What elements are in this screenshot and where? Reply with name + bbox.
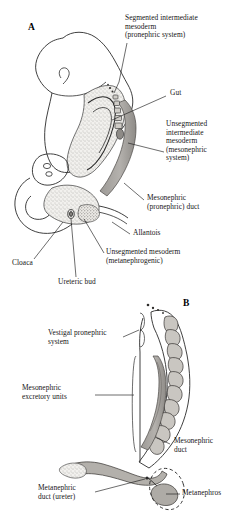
cloaca-stipple-tail	[59, 463, 86, 478]
label-segmented-intermediate-mesoderm: Segmented intermediate mesoderm (proneph…	[125, 14, 237, 40]
otic-vesicle	[59, 68, 69, 84]
leader-cloaca	[34, 222, 63, 259]
panel-a-letter: A	[28, 22, 35, 32]
label-ureteric-bud: Ureteric bud	[58, 278, 96, 287]
label-gut: Gut	[170, 89, 181, 98]
leader-metanephrogenic	[84, 219, 104, 253]
bracket-vestigal-pronephric	[140, 313, 145, 347]
leader-mesonephric-duct	[124, 183, 144, 200]
metanephrogenic-mesoderm	[78, 205, 100, 223]
limb-bud-openings	[43, 163, 52, 176]
label-cloaca: Cloaca	[12, 259, 33, 268]
label-mesonephric-pronephric-duct: Mesonephric (pronephric) duct	[147, 194, 237, 211]
label-allantois: Allantois	[133, 229, 161, 238]
panel-a-artwork	[15, 32, 166, 277]
leader-segmented-mesoderm	[114, 43, 127, 93]
label-metanephros: Metanephros	[182, 489, 221, 498]
leader-metanephric-duct	[95, 479, 145, 492]
label-vestigal-pronephric-system: Vestigal pronephric system	[48, 329, 140, 346]
ureter-origin-dot	[145, 476, 148, 479]
vestigal-pronephric-dots	[147, 304, 164, 314]
leader-ureteric-bud	[71, 219, 76, 277]
label-unsegmented-intermediate-mesoderm: Unsegmented intermediate mesoderm (meson…	[166, 120, 236, 163]
gut-cross-section-a	[116, 129, 123, 139]
embryonic-kidney-development-figure: A Segmented intermediate mesoderm (prone…	[0, 0, 238, 524]
bracket-mesonephric-units	[132, 356, 136, 452]
label-unsegmented-mesoderm-metanephrogenic: Unsegmented mesoderm (metanephrogenic)	[106, 248, 238, 265]
label-mesonephric-excretory-units: Mesonephric excretory units	[22, 384, 98, 401]
metanephros-blob	[151, 484, 178, 506]
leader-allantois	[112, 222, 130, 234]
panel-b-letter: B	[183, 298, 189, 308]
label-mesonephric-duct: Mesonephric duct	[174, 437, 236, 454]
limb-bud	[32, 154, 68, 185]
label-metanephric-duct-ureter: Metanephric duct (ureter)	[38, 484, 98, 501]
